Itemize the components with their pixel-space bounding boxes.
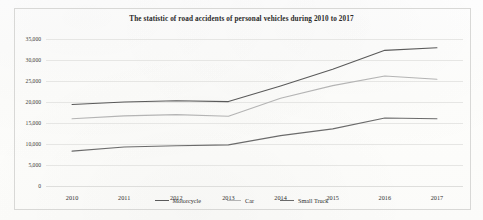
- series-line-car: [72, 76, 437, 119]
- plot-area: 05,00010,00015,00020,00025,00030,00035,0…: [46, 39, 463, 186]
- legend-line-icon: [227, 200, 241, 201]
- y-tick-label: 20,000: [26, 99, 41, 105]
- y-tick-label: 0: [38, 183, 41, 189]
- legend-label: Car: [245, 197, 254, 204]
- legend-item-small-truck[interactable]: Small Truck: [280, 197, 328, 204]
- legend-label: Motorcycle: [173, 197, 202, 204]
- y-tick-label: 10,000: [26, 141, 41, 147]
- series-lines: [46, 39, 463, 186]
- legend-item-car[interactable]: Car: [227, 197, 254, 204]
- y-tick-label: 30,000: [26, 57, 41, 63]
- y-tick-label: 35,000: [26, 36, 41, 42]
- legend-line-icon: [155, 200, 169, 201]
- chart-legend: MotorcycleCarSmall Truck: [0, 197, 483, 204]
- y-tick-label: 15,000: [26, 120, 41, 126]
- legend-line-icon: [280, 200, 294, 201]
- legend-label: Small Truck: [298, 197, 328, 204]
- gridline-0: [46, 186, 463, 187]
- series-line-small-truck: [72, 118, 437, 151]
- chart-title: The statistic of road accidents of perso…: [0, 15, 483, 23]
- y-tick-label: 5,000: [28, 162, 41, 168]
- y-tick-label: 25,000: [26, 78, 41, 84]
- legend-item-motorcycle[interactable]: Motorcycle: [155, 197, 202, 204]
- chart-figure: The statistic of road accidents of perso…: [0, 0, 483, 220]
